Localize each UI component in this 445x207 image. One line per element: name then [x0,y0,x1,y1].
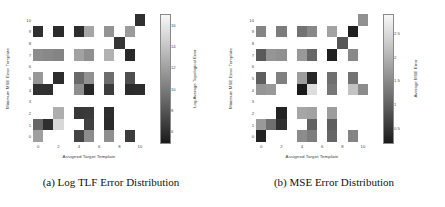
x-tick-label: 4 [301,144,303,149]
colorbar-tick-label: 1.5 [394,78,400,83]
y-tick-label: 3 [240,99,254,104]
heatmap-cell [307,26,317,38]
heatmap-cell [104,72,114,84]
y-tick-label: 5 [17,76,31,81]
heatmap-cell [53,72,63,84]
heatmap-cell [256,26,266,38]
panel-b-caption: (b) MSE Error Distribution [223,176,445,188]
heatmap-cell [84,107,94,119]
heatmap-cell [84,49,94,61]
panel-a-caption: (a) Log TLF Error Distribution [0,176,222,188]
heatmap-cell [74,84,84,96]
heatmap-cell [84,119,94,131]
heatmap-cell [307,84,317,96]
y-tick-label: 7 [240,52,254,57]
heatmap-cell [53,49,63,61]
y-tick-label: 6 [240,64,254,69]
heatmap-cell [276,26,286,38]
panel-b-colorbar-label-text: Average MSE Error [413,59,418,97]
heatmap-cell [276,107,286,119]
heatmap-cell [104,84,114,96]
heatmap-cell [276,49,286,61]
x-tick-label: 6 [321,144,323,149]
heatmap-cell [307,107,317,119]
heatmap-cell [33,49,43,61]
heatmap-cell [297,72,307,84]
panel-b: Minimum MSE Error Template 012345678910 … [223,0,445,207]
heatmap-cell [43,49,53,61]
heatmap-cell [327,119,337,131]
heatmap-cell [114,37,124,49]
panel-a-ylabel-text: Minimum MSE Error Template [6,47,11,108]
heatmap-cell [84,130,94,142]
heatmap-cell [74,72,84,84]
heatmap-cell [276,119,286,131]
heatmap-cell [135,84,145,96]
y-tick-label: 7 [17,52,31,57]
panel-a-x-ticks: 0246810 [33,144,145,152]
x-tick-label: 0 [37,144,39,149]
heatmap-cell [297,49,307,61]
heatmap-cell [256,49,266,61]
y-tick-label: 4 [17,87,31,92]
heatmap-cell [307,72,317,84]
heatmap-cell [266,84,276,96]
panel-b-ylabel: Minimum MSE Error Template [225,16,237,140]
heatmap-cell [348,84,358,96]
heatmap-cell [84,26,94,38]
y-tick-label: 1 [17,122,31,127]
heatmap-cell [33,130,43,142]
heatmap-cell [104,119,114,131]
colorbar-tick-label: 12 [171,65,176,70]
colorbar-tick-label: 10 [171,86,176,91]
heatmap-cell [297,84,307,96]
y-tick-label: 9 [240,29,254,34]
heatmap-cell [33,72,43,84]
colorbar-tick-label: 0.5 [394,125,400,130]
heatmap-cell [256,84,266,96]
colorbar-tick-label: 8 [171,108,173,113]
y-tick-label: 0 [17,134,31,139]
x-tick-label: 2 [57,144,59,149]
heatmap-cell [256,72,266,84]
figure-two-panel-heatmaps: Minimum MSE Error Template 012345678910 … [0,0,445,207]
heatmap-cell [125,84,135,96]
colorbar-tick-label: 2 [394,54,396,59]
y-tick-label: 10 [17,17,31,22]
heatmap-cell [33,119,43,131]
y-tick-label: 4 [240,87,254,92]
heatmap-cell [327,130,337,142]
heatmap-cell [104,107,114,119]
heatmap-cell [33,26,43,38]
y-tick-label: 2 [240,110,254,115]
heatmap-cell [358,84,368,96]
panel-a-colorbar-label-text: Log Average Topological Error [192,49,197,108]
x-tick-label: 0 [260,144,262,149]
y-tick-label: 8 [240,41,254,46]
colorbar-tick-label: 6 [171,129,173,134]
heatmap-cell [348,26,358,38]
panel-b-ylabel-text: Minimum MSE Error Template [229,47,234,108]
heatmap-cell [266,119,276,131]
heatmap-cell [297,26,307,38]
x-tick-label: 10 [361,144,366,149]
heatmap-cell [327,26,337,38]
heatmap-cell [125,72,135,84]
colorbar-tick-label: 2.5 [394,30,400,35]
heatmap-cell [327,72,337,84]
heatmap-cell [327,107,337,119]
heatmap-cell [74,49,84,61]
panel-b-colorbar-label: Average MSE Error [409,14,421,142]
y-tick-label: 8 [17,41,31,46]
panel-a-y-ticks: 012345678910 [16,14,31,142]
panel-a-plot-area [33,14,145,142]
heatmap-cell [307,119,317,131]
heatmap-cell [125,130,135,142]
x-tick-label: 8 [118,144,120,149]
heatmap-cell [307,49,317,61]
y-tick-label: 9 [17,29,31,34]
heatmap-cell [276,72,286,84]
heatmap-cell [297,130,307,142]
panel-b-y-ticks: 012345678910 [239,14,254,142]
heatmap-cell [125,49,135,61]
